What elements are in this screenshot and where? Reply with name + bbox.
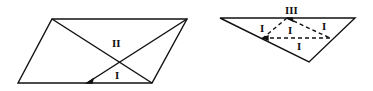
label-region-1-left: I bbox=[260, 24, 264, 34]
triangle-figure bbox=[220, 18, 355, 62]
parallelogram-figure bbox=[18, 19, 187, 83]
label-region-1-center: I bbox=[288, 26, 292, 36]
label-region-2: II bbox=[112, 39, 120, 49]
label-region-3: III bbox=[285, 6, 298, 16]
dashed-line-left bbox=[263, 18, 287, 38]
label-region-1: I bbox=[115, 71, 119, 81]
arrow-mark-icon bbox=[87, 79, 93, 83]
arrow-mark-top-icon bbox=[287, 18, 293, 21]
label-region-1-right: I bbox=[322, 22, 326, 32]
triangle-outline bbox=[220, 18, 355, 62]
label-region-1-bottom: I bbox=[297, 42, 301, 52]
diagram-canvas: II I III I I I I bbox=[0, 0, 373, 91]
